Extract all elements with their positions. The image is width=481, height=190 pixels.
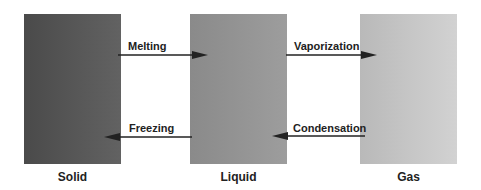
melting-arrow (118, 51, 208, 59)
condensation-arrow (272, 132, 365, 140)
freezing-arrow (104, 133, 192, 141)
vaporization-arrow (286, 51, 377, 59)
arrows-layer (0, 0, 481, 190)
